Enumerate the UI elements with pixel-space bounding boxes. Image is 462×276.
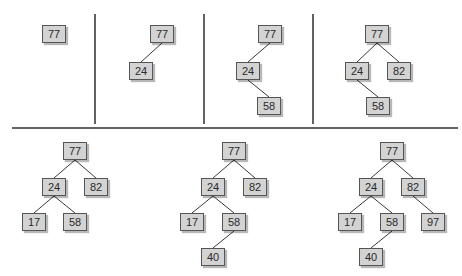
tree-node: 17 xyxy=(22,213,46,231)
tree-edge xyxy=(192,196,213,213)
tree-edge xyxy=(350,196,371,213)
tree-node: 24 xyxy=(129,62,153,80)
tree-node: 82 xyxy=(401,178,425,196)
tree-node: 40 xyxy=(359,248,383,266)
tree-edge xyxy=(213,231,234,248)
tree-edge xyxy=(248,43,270,62)
tree-node: 58 xyxy=(380,213,404,231)
tree-node: 77 xyxy=(258,25,282,43)
tree-node: 17 xyxy=(338,213,362,231)
tree-node: 77 xyxy=(222,142,246,160)
tree-node: 82 xyxy=(387,62,411,80)
tree-edge xyxy=(213,160,234,178)
tree-edge xyxy=(357,80,378,97)
tree-node: 58 xyxy=(63,213,87,231)
tree-node: 40 xyxy=(201,248,225,266)
tree-node: 77 xyxy=(150,25,174,43)
tree-edge xyxy=(141,43,162,62)
tree-edge xyxy=(357,43,377,62)
tree-node: 24 xyxy=(345,62,369,80)
bst-diagram: 7777247724587724825877248217587724821758… xyxy=(0,0,462,276)
tree-node: 77 xyxy=(42,25,66,43)
tree-node: 17 xyxy=(180,213,204,231)
diagram-lines xyxy=(0,0,462,276)
tree-node: 82 xyxy=(84,178,108,196)
tree-edge xyxy=(248,80,269,97)
tree-node: 58 xyxy=(257,97,281,115)
tree-node: 24 xyxy=(359,178,383,196)
tree-node: 77 xyxy=(63,142,87,160)
tree-edge xyxy=(377,43,399,62)
tree-node: 77 xyxy=(365,25,389,43)
tree-edge xyxy=(371,160,392,178)
tree-node: 97 xyxy=(421,213,445,231)
tree-node: 24 xyxy=(42,178,66,196)
tree-edge xyxy=(413,196,433,213)
tree-edge xyxy=(392,160,413,178)
tree-edge xyxy=(371,231,392,248)
tree-edge xyxy=(371,196,392,213)
tree-node: 58 xyxy=(366,97,390,115)
tree-edge xyxy=(234,160,255,178)
tree-node: 82 xyxy=(243,178,267,196)
tree-node: 24 xyxy=(201,178,225,196)
tree-edge xyxy=(54,160,75,178)
tree-node: 24 xyxy=(236,62,260,80)
tree-edge xyxy=(75,160,96,178)
tree-edge xyxy=(213,196,234,213)
tree-edge xyxy=(34,196,54,213)
tree-node: 58 xyxy=(222,213,246,231)
tree-edge xyxy=(54,196,75,213)
tree-node: 77 xyxy=(380,142,404,160)
